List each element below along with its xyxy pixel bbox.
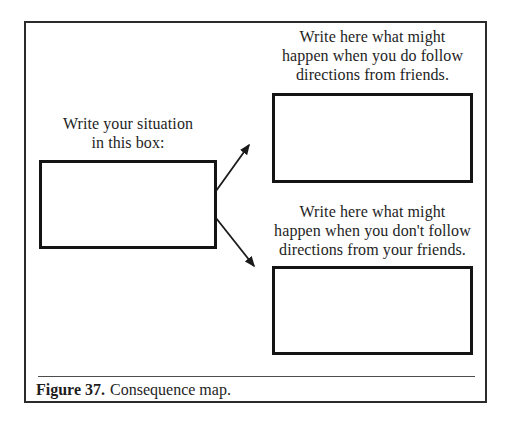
label-line: in this box:: [29, 133, 227, 152]
label-line: directions from your friends.: [261, 240, 484, 259]
caption-divider: [38, 376, 475, 377]
scanned-figure-page: Write your situation in this box: Write …: [0, 0, 511, 425]
label-line: Write here what might: [261, 27, 484, 46]
label-line: Write here what might: [261, 202, 484, 221]
follow-consequence-write-in-box[interactable]: [272, 93, 473, 183]
label-line: Write your situation: [29, 114, 227, 133]
situation-box-label: Write your situation in this box:: [29, 114, 227, 152]
figure-caption-number: Figure 37.: [36, 381, 105, 398]
figure-caption-text: Consequence map.: [110, 381, 231, 398]
situation-write-in-box[interactable]: [39, 160, 217, 249]
label-line: directions from friends.: [261, 65, 484, 84]
not-follow-consequence-label: Write here what might happen when you do…: [261, 202, 484, 259]
not-follow-consequence-write-in-box[interactable]: [272, 266, 473, 355]
follow-consequence-label: Write here what might happen when you do…: [261, 27, 484, 84]
label-line: happen when you don't follow: [261, 221, 484, 240]
label-line: happen when you do follow: [261, 46, 484, 65]
figure-caption: Figure 37.Consequence map.: [36, 380, 231, 399]
